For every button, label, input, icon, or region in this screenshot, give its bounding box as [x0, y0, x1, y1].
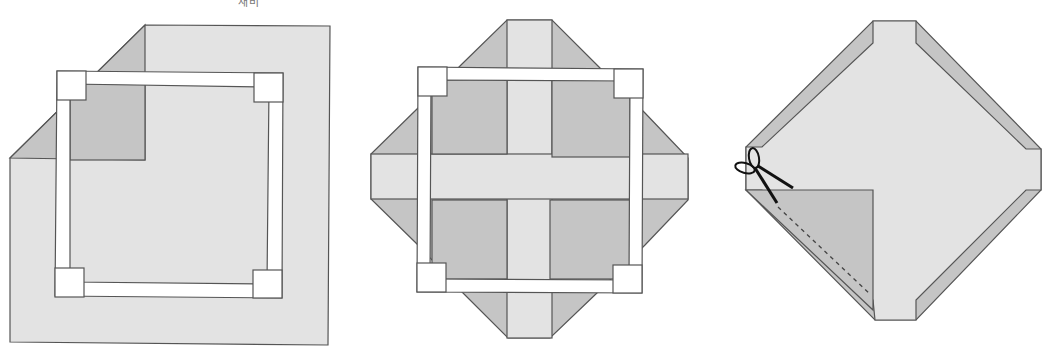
frame-corner — [614, 69, 643, 98]
frame-corner — [57, 71, 86, 100]
figure-step-3 — [734, 21, 1041, 320]
frame-corner — [55, 268, 84, 297]
frame-corner — [613, 265, 642, 293]
frame-corner — [253, 270, 282, 298]
figure-step-1 — [10, 25, 330, 345]
frame-corner — [417, 263, 446, 292]
folding-diagram: .lt { fill:#e3e3e3; stroke:#555; stroke-… — [0, 0, 1042, 353]
frame-corner — [418, 67, 447, 96]
diamond-inner-face — [746, 21, 1041, 320]
frame-corner — [254, 73, 283, 102]
triangle-flap — [746, 190, 873, 310]
figure-step-2 — [371, 20, 688, 338]
